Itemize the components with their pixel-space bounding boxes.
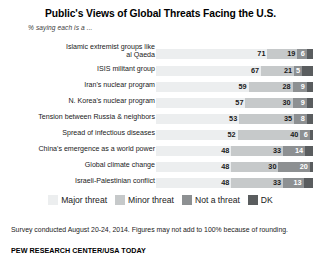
legend-label: Minor threat bbox=[128, 195, 174, 205]
legend-item-major: Major threat bbox=[48, 195, 107, 205]
bar-segment-minor: 21 bbox=[261, 66, 294, 76]
bar-segment-value: 21 bbox=[284, 67, 294, 74]
bar-segment-value: 40 bbox=[290, 131, 300, 138]
chart-row-label: Tension between Russia & neighbors bbox=[9, 113, 155, 121]
bar-segment-major: 59 bbox=[156, 82, 249, 92]
chart-figure: Public's Views of Global Threats Facing … bbox=[0, 0, 321, 266]
chart-row-label: N. Korea's nuclear program bbox=[9, 97, 155, 105]
chart-row-label: Spread of infectious diseases bbox=[9, 129, 155, 137]
bar-segment-major: 57 bbox=[156, 98, 245, 108]
bar-segment-dk bbox=[302, 66, 313, 76]
chart-row: Global climate change483020 bbox=[0, 161, 321, 177]
bar-segment-minor: 33 bbox=[231, 178, 283, 188]
bar-segment-dk bbox=[310, 162, 313, 172]
chart-row-label: Islamic extremist groups likeal Qaeda bbox=[9, 43, 155, 59]
stacked-bar: 59289 bbox=[156, 82, 313, 92]
bar-segment-major: 52 bbox=[156, 130, 238, 140]
bar-segment-value: 59 bbox=[239, 83, 249, 90]
bar-segment-notthreat: 20 bbox=[278, 162, 309, 172]
bar-segment-notthreat: 13 bbox=[283, 178, 303, 188]
legend-label: Major threat bbox=[61, 195, 107, 205]
chart-row-label: ISIS militant group bbox=[9, 65, 155, 73]
bar-segment-value: 48 bbox=[221, 163, 231, 170]
bar-segment-dk bbox=[310, 130, 313, 140]
bar-segment-value: 35 bbox=[284, 115, 294, 122]
bar-segment-value: 57 bbox=[235, 99, 245, 106]
chart-subtitle: % saying each is a ... bbox=[28, 24, 93, 31]
stacked-bar: 483020 bbox=[156, 162, 313, 172]
bar-segment-dk bbox=[307, 82, 313, 92]
legend-label: DK bbox=[261, 195, 273, 205]
legend-swatch-icon bbox=[48, 195, 58, 205]
chart-plot-area: Islamic extremist groups likeal Qaeda711… bbox=[0, 43, 321, 193]
bar-segment-value: 67 bbox=[251, 67, 261, 74]
bar-segment-dk bbox=[307, 98, 313, 108]
bar-segment-value: 48 bbox=[221, 147, 231, 154]
bar-segment-minor: 19 bbox=[267, 49, 297, 59]
bar-segment-notthreat: 9 bbox=[293, 98, 307, 108]
bar-segment-major: 48 bbox=[156, 178, 231, 188]
stacked-bar: 53358 bbox=[156, 114, 313, 124]
bar-segment-minor: 33 bbox=[231, 146, 283, 156]
chart-row-label: Global climate change bbox=[9, 161, 155, 169]
stacked-bar: 52406 bbox=[156, 130, 313, 140]
bar-segment-minor: 28 bbox=[249, 82, 293, 92]
stacked-bar: 483314 bbox=[156, 146, 313, 156]
bar-segment-value: 48 bbox=[221, 179, 231, 186]
chart-row: N. Korea's nuclear program57309 bbox=[0, 97, 321, 113]
chart-row-label: Israeli-Palestinian conflict bbox=[9, 177, 155, 185]
bar-segment-major: 53 bbox=[156, 114, 239, 124]
stacked-bar: 57309 bbox=[156, 98, 313, 108]
bar-segment-value: 13 bbox=[293, 179, 303, 186]
legend-swatch-icon bbox=[248, 195, 258, 205]
legend-item-dk: DK bbox=[248, 195, 273, 205]
bar-segment-major: 67 bbox=[156, 66, 261, 76]
bar-segment-dk bbox=[305, 146, 313, 156]
bar-segment-dk bbox=[307, 49, 313, 59]
bar-segment-notthreat: 6 bbox=[297, 49, 306, 59]
chart-row-label: China's emergence as a world power bbox=[9, 145, 155, 153]
bar-segment-major: 48 bbox=[156, 162, 231, 172]
bar-segment-value: 30 bbox=[268, 163, 278, 170]
bar-segment-value: 52 bbox=[228, 131, 238, 138]
bar-segment-value: 33 bbox=[273, 147, 283, 154]
bar-segment-value: 30 bbox=[282, 99, 292, 106]
chart-row: Iran's nuclear program59289 bbox=[0, 81, 321, 97]
legend-item-minor: Minor threat bbox=[115, 195, 174, 205]
bar-segment-minor: 30 bbox=[231, 162, 278, 172]
bar-segment-major: 48 bbox=[156, 146, 231, 156]
bar-segment-notthreat: 8 bbox=[294, 114, 307, 124]
stacked-bar: 71196 bbox=[156, 49, 313, 59]
bar-segment-dk bbox=[304, 178, 313, 188]
bar-segment-value: 71 bbox=[257, 50, 267, 57]
stacked-bar: 67215 bbox=[156, 66, 313, 76]
chart-row-label-line2: al Qaeda bbox=[126, 51, 155, 59]
bar-segment-notthreat: 6 bbox=[300, 130, 309, 140]
bar-segment-value: 14 bbox=[295, 147, 305, 154]
bar-segment-notthreat: 5 bbox=[294, 66, 302, 76]
bar-segment-value: 53 bbox=[229, 115, 239, 122]
chart-title: Public's Views of Global Threats Facing … bbox=[0, 8, 321, 19]
bar-segment-value: 28 bbox=[282, 83, 292, 90]
legend-swatch-icon bbox=[115, 195, 125, 205]
bar-segment-value: 20 bbox=[300, 163, 310, 170]
bar-segment-major: 71 bbox=[156, 49, 267, 59]
bar-segment-dk bbox=[307, 114, 313, 124]
chart-footnote: Survey conducted August 20-24, 2014. Fig… bbox=[11, 225, 311, 234]
bar-segment-minor: 35 bbox=[239, 114, 294, 124]
stacked-bar: 483313 bbox=[156, 178, 313, 188]
bar-segment-minor: 40 bbox=[238, 130, 301, 140]
chart-row: ISIS militant group67215 bbox=[0, 65, 321, 81]
chart-row: Spread of infectious diseases52406 bbox=[0, 129, 321, 145]
bar-segment-value: 19 bbox=[287, 50, 297, 57]
bar-segment-notthreat: 14 bbox=[283, 146, 305, 156]
legend-swatch-icon bbox=[182, 195, 192, 205]
chart-legend: Major threatMinor threatNot a threatDK bbox=[0, 195, 321, 205]
bar-segment-notthreat: 9 bbox=[293, 82, 307, 92]
chart-row: Tension between Russia & neighbors53358 bbox=[0, 113, 321, 129]
legend-item-notthreat: Not a threat bbox=[182, 195, 240, 205]
chart-row: Israeli-Palestinian conflict483313 bbox=[0, 177, 321, 193]
chart-row: Islamic extremist groups likeal Qaeda711… bbox=[0, 43, 321, 65]
bar-segment-value: 33 bbox=[273, 179, 283, 186]
chart-source: PEW RESEARCH CENTER/USA TODAY bbox=[11, 246, 146, 255]
